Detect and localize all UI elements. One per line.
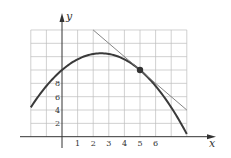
x-tick-label: 1 — [75, 139, 80, 148]
x-tick-label: 3 — [106, 139, 111, 148]
tangent-point — [137, 67, 143, 73]
chart: 1234562468 x y — [0, 0, 231, 158]
x-axis-label: x — [209, 137, 216, 150]
y-axis-arrow-icon — [60, 13, 65, 22]
tick-labels: 1234562468 — [55, 79, 158, 147]
x-tick-label: 2 — [91, 139, 96, 148]
x-tick-label: 4 — [122, 139, 127, 148]
x-tick-label: 5 — [138, 139, 143, 148]
y-tick-label: 4 — [55, 106, 60, 115]
y-axis-label: y — [65, 10, 73, 23]
y-tick-label: 6 — [55, 93, 60, 102]
x-tick-label: 6 — [153, 139, 158, 148]
y-tick-label: 8 — [55, 79, 60, 88]
y-tick-label: 2 — [55, 119, 60, 128]
